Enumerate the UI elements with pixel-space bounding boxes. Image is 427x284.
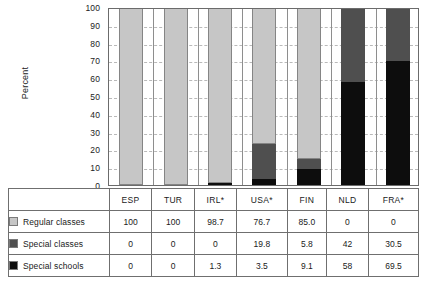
table-cell: 30.5 bbox=[368, 233, 418, 255]
bar-segment-regular-classes bbox=[119, 8, 143, 185]
column-header-fra: FRA* bbox=[368, 189, 418, 211]
stacked-bar bbox=[164, 8, 188, 185]
stacked-bar bbox=[119, 8, 143, 185]
table-cell: 0 bbox=[110, 255, 152, 277]
table-cell: 1.3 bbox=[195, 255, 237, 277]
table-cell: 0 bbox=[110, 233, 152, 255]
column-header-nld: NLD bbox=[326, 189, 368, 211]
bar-series-layer bbox=[109, 9, 418, 185]
bar-segment-special-schools bbox=[297, 169, 321, 185]
legend-label: Regular classes bbox=[23, 217, 85, 227]
table-cell: 69.5 bbox=[368, 255, 418, 277]
table-cell: 0 bbox=[152, 233, 195, 255]
y-tick-label: 10 bbox=[90, 164, 100, 172]
table-cell: 58 bbox=[326, 255, 368, 277]
column-header-fin: FIN bbox=[287, 189, 326, 211]
y-tick-label: 20 bbox=[90, 146, 100, 154]
column-header-irl: IRL* bbox=[195, 189, 237, 211]
table-cell: 0 bbox=[195, 233, 237, 255]
bar-segment-special-classes bbox=[252, 144, 276, 179]
black-swatch bbox=[9, 261, 18, 270]
bar-segment-special-schools bbox=[386, 61, 410, 185]
table-cell: 0 bbox=[368, 211, 418, 233]
stacked-bar bbox=[341, 8, 365, 185]
table-cell: 100 bbox=[152, 211, 195, 233]
table-row: Special classes00019.85.84230.5 bbox=[9, 233, 419, 255]
bar-segment-special-classes bbox=[386, 8, 410, 61]
bar-column-usa bbox=[242, 9, 286, 185]
bar-segment-regular-classes bbox=[208, 8, 232, 183]
y-tick-label: 30 bbox=[90, 129, 100, 137]
table-cell: 85.0 bbox=[287, 211, 326, 233]
table-cell: 19.8 bbox=[236, 233, 287, 255]
table-cell: 5.8 bbox=[287, 233, 326, 255]
table-cell: 9.1 bbox=[287, 255, 326, 277]
table-header-row: ESPTURIRL*USA*FINNLDFRA* bbox=[9, 189, 419, 211]
stacked-bar bbox=[297, 8, 321, 185]
y-tick-label: 40 bbox=[90, 111, 100, 119]
bar-segment-special-schools bbox=[208, 183, 232, 185]
legend-row-label: Regular classes bbox=[9, 211, 110, 233]
table-cell: 3.5 bbox=[236, 255, 287, 277]
bar-column-esp bbox=[109, 9, 153, 185]
y-tick-label: 50 bbox=[90, 93, 100, 101]
legend-label: Special schools bbox=[23, 261, 84, 271]
table-cell: 0 bbox=[326, 211, 368, 233]
y-tick-label: 90 bbox=[90, 22, 100, 30]
stacked-bar bbox=[208, 8, 232, 185]
y-tick-label: 70 bbox=[90, 57, 100, 65]
data-table: ESPTURIRL*USA*FINNLDFRA*Regular classes1… bbox=[8, 188, 419, 277]
y-tick-label: 80 bbox=[90, 40, 100, 48]
table-cell: 42 bbox=[326, 233, 368, 255]
bar-segment-special-classes bbox=[297, 159, 321, 169]
y-axis-tick-labels: 1009080706050403020100 bbox=[62, 8, 104, 186]
bar-column-irl bbox=[198, 9, 242, 185]
dark-gray-swatch bbox=[9, 239, 18, 248]
table-cell: 100 bbox=[110, 211, 152, 233]
legend-row-label: Special schools bbox=[9, 255, 110, 277]
stacked-bar-chart: Percent 1009080706050403020100 ESPTURIRL… bbox=[0, 0, 427, 284]
bar-column-nld bbox=[331, 9, 375, 185]
legend-label: Special classes bbox=[23, 239, 83, 249]
bar-column-fin bbox=[287, 9, 331, 185]
bar-segment-special-classes bbox=[341, 8, 365, 82]
column-header-esp: ESP bbox=[110, 189, 152, 211]
table-row: Regular classes10010098.776.785.000 bbox=[9, 211, 419, 233]
table-header-blank bbox=[9, 189, 110, 211]
y-tick-label: 60 bbox=[90, 75, 100, 83]
stacked-bar bbox=[386, 8, 410, 185]
y-axis-title: Percent bbox=[20, 38, 30, 128]
bar-segment-regular-classes bbox=[164, 8, 188, 185]
bar-column-fra bbox=[376, 9, 419, 185]
table-cell: 98.7 bbox=[195, 211, 237, 233]
table-cell: 76.7 bbox=[236, 211, 287, 233]
light-gray-swatch bbox=[9, 217, 18, 226]
table-cell: 0 bbox=[152, 255, 195, 277]
plot-area bbox=[108, 8, 419, 186]
table-row: Special schools001.33.59.15869.5 bbox=[9, 255, 419, 277]
bar-segment-special-schools bbox=[252, 179, 276, 185]
bar-segment-special-schools bbox=[341, 82, 365, 185]
legend-row-label: Special classes bbox=[9, 233, 110, 255]
bar-column-tur bbox=[153, 9, 197, 185]
stacked-bar bbox=[252, 8, 276, 185]
bar-segment-regular-classes bbox=[252, 8, 276, 144]
column-header-usa: USA* bbox=[236, 189, 287, 211]
column-header-tur: TUR bbox=[152, 189, 195, 211]
y-tick-label: 100 bbox=[86, 4, 100, 12]
bar-segment-regular-classes bbox=[297, 8, 321, 159]
